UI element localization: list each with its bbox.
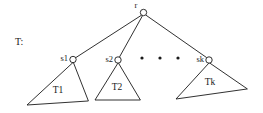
node-group	[70, 9, 212, 63]
node-circle-s2	[115, 57, 121, 63]
edge-root-to-s1	[76, 15, 142, 57]
tree-diagram-svg: T: T1 T2 Tk	[0, 0, 263, 113]
node-label-r: r	[135, 0, 138, 10]
ellipsis-between-subtrees	[140, 56, 179, 59]
subtree-label-tk: Tk	[205, 77, 216, 87]
node-label-s2: s2	[105, 54, 113, 64]
ellipsis-dot	[158, 56, 161, 59]
figure-label: T:	[15, 36, 23, 47]
node-circle-sk	[206, 57, 212, 63]
node-label-s1: s1	[60, 53, 68, 63]
node-circle-r	[140, 9, 146, 15]
edge-root-to-sk	[146, 15, 207, 57]
node-label-sk: sk	[196, 54, 204, 64]
subtree-label-t1: T1	[53, 85, 64, 95]
ellipsis-dot	[140, 56, 143, 59]
figure-root: T: T1 T2 Tk	[0, 0, 263, 113]
subtree-label-t2: T2	[112, 82, 123, 92]
subtree-triangle-t1	[27, 63, 88, 106]
edge-group	[76, 15, 207, 57]
node-circle-s1	[70, 56, 76, 62]
ellipsis-dot	[176, 56, 179, 59]
